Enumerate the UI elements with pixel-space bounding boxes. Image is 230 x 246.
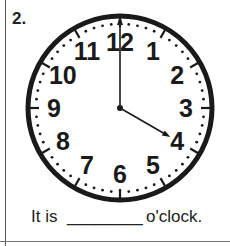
caption-prefix: It is [31, 207, 57, 227]
minute-dot [195, 141, 198, 144]
minute-dot [187, 156, 190, 159]
numeral-4: 4 [170, 127, 184, 155]
minute-dot [39, 81, 42, 84]
minute-dot [127, 23, 130, 26]
numeral-5: 5 [146, 151, 160, 179]
caption-suffix: o'clock. [146, 207, 202, 227]
minute-dot [62, 44, 65, 47]
minute-dot [127, 190, 130, 193]
numeral-3: 3 [179, 94, 193, 122]
minute-dot [153, 183, 156, 186]
minute-dot [110, 23, 113, 26]
numeral-11: 11 [74, 37, 101, 65]
numeral-2: 2 [170, 61, 184, 89]
minute-dot [198, 81, 201, 84]
minute-dot [69, 39, 72, 42]
minute-dot [36, 124, 39, 127]
minute-dot [69, 175, 72, 178]
minute-dot [51, 156, 54, 159]
minute-dot [36, 89, 39, 92]
minute-dot [62, 169, 65, 172]
minute-dot [93, 186, 96, 189]
minute-dot [136, 24, 139, 27]
minute-dot [136, 189, 139, 192]
minute-dot [175, 169, 178, 172]
minute-dot [198, 133, 201, 136]
minute-dot [145, 27, 148, 30]
minute-dot [101, 189, 104, 192]
minute-dot [56, 163, 59, 166]
numeral-6: 6 [113, 160, 127, 188]
numeral-9: 9 [47, 94, 61, 122]
minute-dot [84, 183, 87, 186]
numeral-8: 8 [56, 127, 70, 155]
minute-dot [93, 27, 96, 30]
minute-dot [35, 98, 38, 101]
minute-dot [101, 24, 104, 27]
numeral-1: 1 [146, 37, 160, 65]
minute-dot [187, 57, 190, 60]
minute-dot [84, 30, 87, 33]
numeral-10: 10 [49, 61, 77, 89]
minute-dot [181, 50, 184, 53]
minute-dot [201, 89, 204, 92]
minute-dot [201, 124, 204, 127]
minute-dot [153, 30, 156, 33]
answer-blank[interactable]: ________ [67, 207, 143, 227]
minute-dot [56, 50, 59, 53]
minute-dot [175, 44, 178, 47]
minute-dot [168, 39, 171, 42]
minute-dot [35, 115, 38, 118]
minute-dot [42, 141, 45, 144]
minute-dot [42, 72, 45, 75]
numeral-7: 7 [80, 151, 94, 179]
center-pivot [117, 105, 123, 111]
minute-dot [202, 98, 205, 101]
minute-dot [181, 163, 184, 166]
minute-dot [110, 190, 113, 193]
minute-dot [145, 186, 148, 189]
minute-dot [202, 115, 205, 118]
minute-dot [195, 72, 198, 75]
minute-dot [51, 57, 54, 60]
minute-dot [168, 175, 171, 178]
minute-dot [39, 133, 42, 136]
